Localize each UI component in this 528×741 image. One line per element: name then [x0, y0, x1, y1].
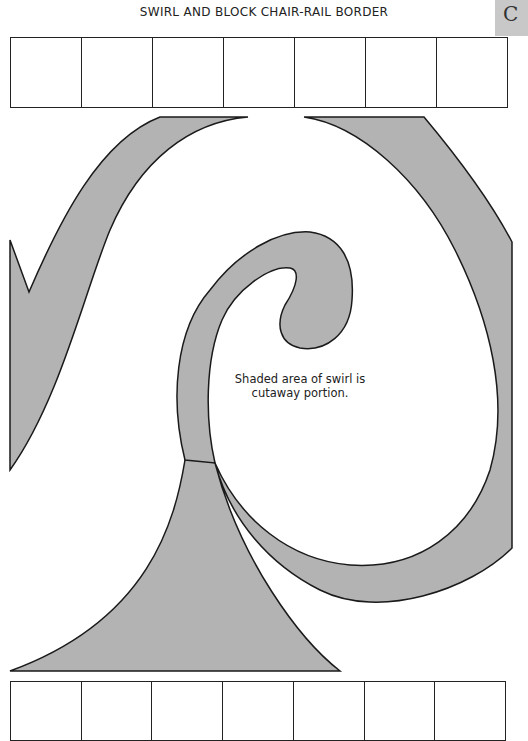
- swirl-caption: Shaded area of swirl is cutaway portion.: [220, 372, 380, 400]
- caption-line-1: Shaded area of swirl is: [220, 372, 380, 386]
- center-curl: [177, 232, 352, 463]
- block-cell: [294, 682, 365, 740]
- block-cell: [365, 682, 436, 740]
- block-cell: [152, 682, 223, 740]
- block-cell: [435, 682, 505, 740]
- caption-line-2: cutaway portion.: [220, 386, 380, 400]
- block-cell: [82, 682, 153, 740]
- block-cell: [11, 682, 82, 740]
- block-cell: [223, 682, 294, 740]
- bottom-block-row: [10, 681, 506, 741]
